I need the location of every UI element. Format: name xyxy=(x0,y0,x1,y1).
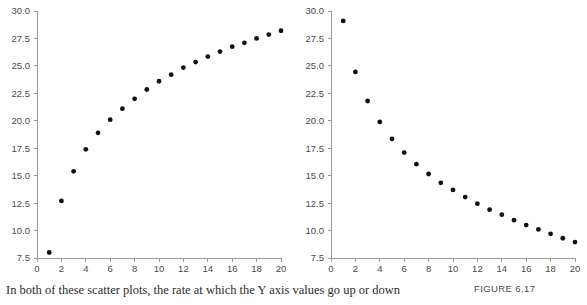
data-point xyxy=(524,223,529,228)
x-axis-tick-label: 2 xyxy=(59,263,64,274)
data-point xyxy=(365,99,370,104)
y-axis-tick-label: 17.5 xyxy=(306,143,325,154)
data-point xyxy=(193,60,198,65)
x-axis-tick-label: 14 xyxy=(203,263,214,274)
scatter-plot-left-canvas: 7.510.012.515.017.520.022.525.027.530.00… xyxy=(0,0,293,280)
data-point xyxy=(266,32,271,37)
y-axis-tick-label: 30.0 xyxy=(12,5,31,16)
x-axis-tick-label: 20 xyxy=(570,263,581,274)
data-point xyxy=(71,169,76,174)
scatter-plot-row: 7.510.012.515.017.520.022.525.027.530.00… xyxy=(0,0,587,280)
x-axis-tick-label: 6 xyxy=(402,263,407,274)
data-point xyxy=(169,72,174,77)
data-point xyxy=(47,250,52,255)
x-axis-tick-label: 16 xyxy=(521,263,532,274)
x-axis-tick-label: 8 xyxy=(426,263,431,274)
data-point xyxy=(132,96,137,101)
data-point xyxy=(402,150,407,155)
data-point xyxy=(218,49,223,54)
data-point xyxy=(144,87,149,92)
x-axis-tick-label: 4 xyxy=(377,263,382,274)
data-point xyxy=(108,117,113,122)
x-axis-tick-label: 14 xyxy=(497,263,508,274)
x-axis-tick-label: 0 xyxy=(328,263,333,274)
x-axis-tick-label: 8 xyxy=(132,263,137,274)
x-axis-tick-label: 16 xyxy=(227,263,238,274)
data-point xyxy=(279,28,284,33)
x-axis-tick-label: 6 xyxy=(108,263,113,274)
y-axis-tick-label: 25.0 xyxy=(12,60,31,71)
data-point xyxy=(463,195,468,200)
data-point xyxy=(487,207,492,212)
data-point xyxy=(377,119,382,124)
scatter-plot-right-canvas: 7.510.012.515.017.520.022.525.027.530.00… xyxy=(294,0,587,280)
y-axis-tick-label: 20.0 xyxy=(12,115,31,126)
y-axis-tick-label: 7.5 xyxy=(311,252,324,263)
data-point xyxy=(254,36,259,41)
y-axis-tick-label: 25.0 xyxy=(306,60,325,71)
y-axis-tick-label: 7.5 xyxy=(17,252,30,263)
data-point xyxy=(96,130,101,135)
data-point xyxy=(341,18,346,23)
data-point xyxy=(390,136,395,141)
x-axis-tick-label: 12 xyxy=(178,263,189,274)
y-axis-tick-label: 10.0 xyxy=(12,225,31,236)
figure-number-label: FIGURE 6.17 xyxy=(474,283,535,294)
data-point xyxy=(205,54,210,59)
data-point xyxy=(512,218,517,223)
x-axis-tick-label: 10 xyxy=(154,263,165,274)
data-point xyxy=(548,231,553,236)
y-axis-tick-label: 12.5 xyxy=(12,198,31,209)
x-axis-tick-label: 20 xyxy=(276,263,287,274)
data-point xyxy=(451,188,456,193)
x-axis-tick-label: 10 xyxy=(448,263,459,274)
scatter-plot-left: 7.510.012.515.017.520.022.525.027.530.00… xyxy=(0,0,293,280)
y-axis-tick-label: 10.0 xyxy=(306,225,325,236)
data-point xyxy=(181,65,186,70)
data-point xyxy=(536,227,541,232)
x-axis-tick-label: 18 xyxy=(545,263,556,274)
data-point xyxy=(59,199,64,204)
figure-caption-row: In both of these scatter plots, the rate… xyxy=(0,283,587,305)
figure-container: 7.510.012.515.017.520.022.525.027.530.00… xyxy=(0,0,587,305)
scatter-plot-right: 7.510.012.515.017.520.022.525.027.530.00… xyxy=(294,0,587,280)
data-point xyxy=(83,147,88,152)
data-point xyxy=(353,70,358,75)
data-point xyxy=(230,44,235,49)
data-point xyxy=(438,180,443,185)
data-point xyxy=(157,79,162,84)
data-point xyxy=(573,240,578,245)
y-axis-tick-label: 15.0 xyxy=(12,170,31,181)
figure-caption-text: In both of these scatter plots, the rate… xyxy=(6,283,426,298)
data-point xyxy=(560,236,565,241)
y-axis-tick-label: 27.5 xyxy=(12,33,31,44)
y-axis-tick-label: 17.5 xyxy=(12,143,31,154)
x-axis-tick-label: 0 xyxy=(34,263,39,274)
y-axis-tick-label: 12.5 xyxy=(306,198,325,209)
y-axis-tick-label: 22.5 xyxy=(306,88,325,99)
y-axis-tick-label: 27.5 xyxy=(306,33,325,44)
y-axis-tick-label: 20.0 xyxy=(306,115,325,126)
x-axis-tick-label: 12 xyxy=(472,263,483,274)
data-point xyxy=(242,40,247,45)
y-axis-tick-label: 30.0 xyxy=(306,5,325,16)
x-axis-tick-label: 2 xyxy=(353,263,358,274)
data-point xyxy=(120,106,125,111)
y-axis-tick-label: 15.0 xyxy=(306,170,325,181)
x-axis-tick-label: 18 xyxy=(251,263,262,274)
y-axis-tick-label: 22.5 xyxy=(12,88,31,99)
data-point xyxy=(475,201,480,206)
data-point xyxy=(414,162,419,167)
x-axis-tick-label: 4 xyxy=(83,263,88,274)
data-point xyxy=(499,212,504,217)
data-point xyxy=(426,172,431,177)
